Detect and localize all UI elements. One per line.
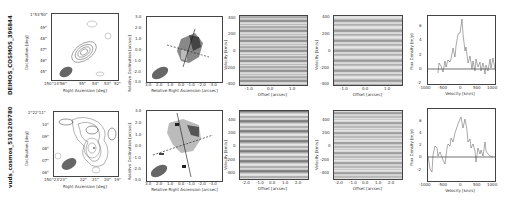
- velocity-map-panel-row2: Relative Declination [arcsec] 3.0 2.0 1.…: [125, 100, 225, 204]
- spectrum-panel-row2: Flux Density [mJy] 6 4 2 0 -2 -1000 -500…: [405, 100, 510, 204]
- y-axis-label: Velocity [km/s]: [314, 40, 319, 70]
- x-axis-label: Offset [arcsec]: [245, 186, 300, 191]
- moment0-plot: [51, 13, 119, 81]
- moment0-panel-row1: Declination [deg] 1°53'50" 49" 48" 47" 4…: [0, 0, 125, 100]
- velocity-map-plot: [146, 110, 223, 182]
- pv-major-diagram: [239, 15, 308, 86]
- x-axis-label: Offset [arcsec]: [340, 92, 395, 97]
- moment0-panel-row2: Declination [deg] 2°22'11" 10" 09" 08" 0…: [0, 100, 125, 204]
- velocity-field: [147, 17, 222, 82]
- x-axis-label: Relative Right Ascension [arcsec]: [147, 187, 222, 192]
- velocity-field: [147, 111, 222, 181]
- x-axis-label: Offset [arcsec]: [340, 186, 395, 191]
- pv-major-panel-row1: 400 200 0 -200 -400 -1.0 0.0 1.0 Offset …: [225, 0, 315, 100]
- x-axis-label: Offset [arcsec]: [245, 92, 300, 97]
- contour-map: [52, 14, 118, 80]
- pv-major-row1-y-axis-label: Velocity [km/s]: [223, 40, 228, 70]
- x-axis-label: Relative Right Ascension [arcsec]: [147, 88, 222, 93]
- y-axis-label: Flux Density [mJy]: [409, 33, 414, 70]
- spectrum-plot: [427, 108, 496, 182]
- y-axis-label: Relative Declination [arcsec]: [127, 35, 132, 92]
- x-axis-label: Right Ascension [deg]: [60, 184, 110, 189]
- y-axis-label: Velocity [km/s]: [314, 140, 319, 170]
- spectrum-panel-row1: Flux Density [mJy] 6 4 2 0 -2 -1000 -500…: [405, 0, 510, 100]
- spectrum-line: [428, 109, 495, 181]
- x-axis-label: Right Ascension [deg]: [60, 88, 110, 93]
- y-axis-label: Relative Declination [arcsec]: [127, 123, 132, 180]
- spectrum-plot: [427, 15, 496, 85]
- y-axis-label: Declination [deg]: [24, 35, 29, 70]
- contour-map: [54, 112, 118, 176]
- x-axis-label: Velocity [km/s]: [430, 91, 490, 96]
- y-axis-label: Velocity [km/s]: [223, 140, 228, 170]
- pv-major-panel-row2: Velocity [km/s] 400 200 0 -200 -400 -2.0…: [225, 100, 315, 204]
- moment0-plot: [53, 111, 119, 177]
- spectrum-line: [428, 16, 495, 84]
- x-axis-label: Velocity [km/s]: [430, 188, 490, 193]
- pv-major-diagram: [239, 110, 309, 180]
- velocity-map-plot: [146, 16, 223, 83]
- y-axis-label: Flux Density [mJy]: [409, 129, 414, 166]
- velocity-map-panel-row1: Relative Declination [arcsec] 3.0 2.0 1.…: [125, 0, 225, 100]
- pv-minor-diagram: [333, 15, 403, 86]
- pv-minor-panel-row1: Velocity [km/s] 400 200 0 -200 -400 -1.0…: [310, 0, 405, 100]
- pv-minor-diagram: [333, 110, 403, 180]
- y-axis-label: Declination [deg]: [24, 131, 29, 166]
- pv-minor-panel-row2: Velocity [km/s] 400 200 0 -200 -400 -2.0…: [310, 100, 405, 204]
